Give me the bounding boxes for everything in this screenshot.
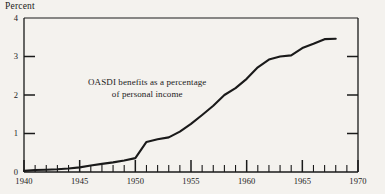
data-series bbox=[24, 39, 336, 171]
y-tick-label: 3 bbox=[4, 51, 18, 61]
x-tick-label: 1940 bbox=[2, 176, 46, 186]
x-tick-label: 1950 bbox=[113, 176, 157, 186]
x-tick-label: 1970 bbox=[336, 176, 380, 186]
y-tick-label: 2 bbox=[4, 90, 18, 100]
y-tick-label: 0 bbox=[4, 167, 18, 177]
annotation-line-2: of personal income bbox=[88, 88, 206, 100]
series-annotation: OASDI benefits as a percentage of person… bbox=[88, 76, 206, 100]
x-tick-label: 1955 bbox=[169, 176, 213, 186]
x-tick-label: 1960 bbox=[225, 176, 269, 186]
x-tick-label: 1965 bbox=[280, 176, 324, 186]
annotation-line-1: OASDI benefits as a percentage bbox=[88, 76, 206, 88]
chart-figure: Percent 43210 19401945195019551960196519… bbox=[0, 0, 385, 194]
axis-ticks bbox=[24, 57, 358, 173]
x-tick-label: 1945 bbox=[58, 176, 102, 186]
y-tick-label: 1 bbox=[4, 128, 18, 138]
y-tick-label: 4 bbox=[4, 13, 18, 23]
series-line bbox=[24, 39, 336, 171]
